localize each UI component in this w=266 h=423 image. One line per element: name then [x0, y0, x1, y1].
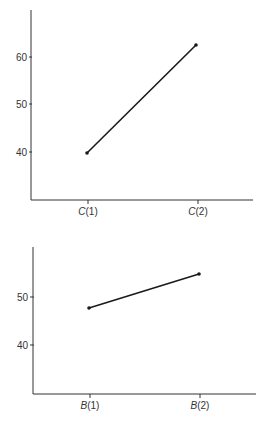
y-tick-label: 50 — [17, 292, 29, 303]
data-line — [89, 274, 199, 308]
y-tick-label: 50 — [16, 99, 28, 110]
data-line — [87, 45, 196, 153]
chart-b: 50 40 B(1) B(2) — [17, 247, 256, 411]
y-tick-label: 60 — [16, 52, 28, 63]
x-category-label: C(2) — [188, 206, 207, 217]
data-point — [87, 306, 91, 310]
y-tick-label: 40 — [17, 340, 29, 351]
x-category-label: B(1) — [81, 400, 100, 411]
x-category-label: B(2) — [191, 400, 210, 411]
x-category-label: C(1) — [78, 206, 97, 217]
data-point — [194, 43, 198, 47]
data-point — [197, 272, 201, 276]
data-point — [85, 151, 89, 155]
chart-c: 60 50 40 C(1) C(2) — [16, 10, 253, 217]
figure: 60 50 40 C(1) C(2) 50 40 B(1) B(2) — [0, 0, 266, 423]
y-tick-label: 40 — [16, 147, 28, 158]
